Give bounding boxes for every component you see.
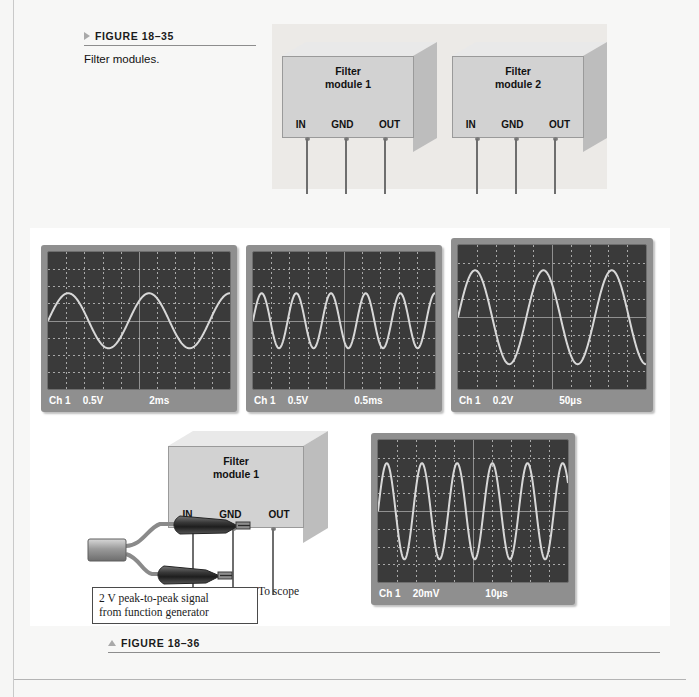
module-1-side-face	[413, 42, 437, 152]
figure-18-36-artwork-panel: Ch 1 0.5V 2ms Ch 1 0.5V 0.5ms Ch 1 0.2V …	[30, 228, 670, 626]
module-1-pin-label-out: OUT	[379, 119, 400, 130]
figure-18-36-label: FIGURE 18–36	[121, 637, 200, 649]
module-1-pin-label-in: IN	[296, 119, 306, 130]
figure-18-36-caption-block: FIGURE 18–36	[108, 637, 660, 653]
signal-source-note-box: 2 V peak-to-peak signal from function ge…	[92, 587, 258, 624]
function-generator-connector	[88, 539, 126, 561]
module-2-pin-labels: IN GND OUT	[453, 119, 583, 130]
module-2-title: Filter module 2	[453, 65, 583, 90]
module-1-pin-out	[384, 139, 386, 194]
signal-source-note-line2: from function generator	[99, 605, 251, 619]
to-scope-label: To scope	[258, 585, 299, 597]
figure-18-35-label-row: FIGURE 18–35	[84, 30, 256, 42]
module-1-front-face: Filter module 1 IN GND OUT	[282, 56, 414, 138]
figure-18-35-rule	[84, 45, 256, 46]
module-1-pin-gnd	[345, 139, 347, 194]
signal-source-note-line1: 2 V peak-to-peak signal	[99, 591, 251, 605]
page-gutter-rule	[13, 0, 14, 697]
alligator-clip-gnd	[174, 516, 250, 534]
triangle-up-icon	[108, 640, 116, 646]
module-1-title-line1: Filter	[283, 65, 413, 78]
module-1-title: Filter module 1	[283, 65, 413, 90]
module-2-side-face	[583, 42, 607, 152]
module-2-pin-out	[554, 139, 556, 194]
module-2-pin-label-in: IN	[466, 119, 476, 130]
figure-18-35-artwork-panel: Filter module 1 IN GND OUT Filter module…	[272, 24, 607, 189]
module-2-pin-label-gnd: GND	[501, 119, 523, 130]
module-2-title-line2: module 2	[453, 78, 583, 91]
module-1-pin-labels: IN GND OUT	[283, 119, 413, 130]
probe-wiring-graphic	[30, 228, 670, 626]
probe-wire-top	[126, 524, 182, 546]
module-2-pin-in	[476, 139, 478, 194]
figure-18-35-caption-text: Filter modules.	[84, 53, 256, 65]
filter-module-2-graphic: Filter module 2 IN GND OUT	[452, 42, 607, 174]
alligator-clip-in	[158, 566, 232, 584]
module-2-front-face: Filter module 2 IN GND OUT	[452, 56, 584, 138]
module-1-title-line2: module 1	[283, 78, 413, 91]
module-1-pin-in	[306, 139, 308, 194]
module-2-title-line1: Filter	[453, 65, 583, 78]
module-2-pin-label-out: OUT	[549, 119, 570, 130]
module-2-pin-gnd	[515, 139, 517, 194]
figure-18-36-rule	[108, 652, 660, 653]
module-2-top-face	[452, 42, 607, 56]
module-1-top-face	[282, 42, 437, 56]
module-1-pin-label-gnd: GND	[331, 119, 353, 130]
figure-18-36-label-row: FIGURE 18–36	[108, 637, 660, 649]
triangle-right-icon	[84, 32, 90, 40]
filter-module-1-graphic: Filter module 1 IN GND OUT	[282, 42, 437, 174]
figure-18-35-label: FIGURE 18–35	[95, 30, 174, 42]
page-bottom-rule	[14, 679, 686, 680]
figure-18-35-caption-block: FIGURE 18–35 Filter modules.	[84, 30, 256, 65]
